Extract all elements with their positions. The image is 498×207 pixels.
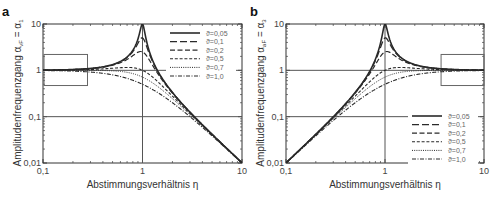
panel-b-x-axis-title: Abstimmungsverhältnis η bbox=[329, 179, 441, 190]
legend-label: ϑ=0,5 bbox=[206, 55, 224, 62]
legend: ϑ=0,05ϑ=0,1ϑ=0,2ϑ=0,5ϑ=0,7ϑ=1,0 bbox=[166, 27, 236, 83]
legend-label: ϑ=0,05 bbox=[206, 30, 228, 37]
y-tick-label: 10 bbox=[31, 19, 41, 29]
legend-label: ϑ=0,7 bbox=[448, 147, 466, 154]
panel-a-x-axis-title: Abstimmungsverhältnis η bbox=[87, 179, 199, 190]
legend: ϑ=0,05ϑ=0,1ϑ=0,2ϑ=0,5ϑ=0,7ϑ=1,0 bbox=[408, 110, 478, 166]
panel-a-chart: a 0,11100,010,1110ϑ=0,05ϑ=0,1ϑ=0,2ϑ=0,5ϑ… bbox=[2, 4, 247, 190]
figure: a 0,11100,010,1110ϑ=0,05ϑ=0,1ϑ=0,2ϑ=0,5ϑ… bbox=[0, 0, 498, 207]
y-tick-label: 0,01 bbox=[23, 158, 41, 168]
x-tick-label: 1 bbox=[382, 166, 387, 176]
panel-b-y-axis-title: Amplitudenfrequenzgang αaF = α3 bbox=[255, 19, 267, 167]
legend-label: ϑ=0,1 bbox=[448, 121, 466, 128]
y-tick-label: 0,1 bbox=[271, 112, 284, 122]
y-tick-label: 0,01 bbox=[266, 158, 284, 168]
x-tick-label: 10 bbox=[479, 166, 489, 176]
panel-b-plot-area: 0,11100,010,1110ϑ=0,05ϑ=0,1ϑ=0,2ϑ=0,5ϑ=0… bbox=[266, 19, 489, 176]
y-tick-label: 1 bbox=[36, 65, 41, 75]
x-tick-label: 1 bbox=[140, 166, 145, 176]
legend-label: ϑ=0,2 bbox=[448, 130, 466, 137]
legend-label: ϑ=0,05 bbox=[448, 113, 470, 120]
legend-label: ϑ=0,2 bbox=[206, 47, 224, 54]
x-tick-label: 10 bbox=[237, 166, 247, 176]
panel-a-plot-area: 0,11100,010,1110ϑ=0,05ϑ=0,1ϑ=0,2ϑ=0,5ϑ=0… bbox=[23, 19, 247, 176]
legend-label: ϑ=0,1 bbox=[206, 38, 224, 45]
legend-label: ϑ=1,0 bbox=[206, 73, 224, 80]
legend-label: ϑ=0,7 bbox=[206, 64, 224, 71]
panel-b-chart: b 0,11100,010,1110ϑ=0,05ϑ=0,1ϑ=0,2ϑ=0,5ϑ… bbox=[250, 4, 489, 190]
y-tick-label: 10 bbox=[274, 19, 284, 29]
legend-label: ϑ=0,5 bbox=[448, 138, 466, 145]
legend-label: ϑ=1,0 bbox=[448, 156, 466, 163]
panel-b-letter: b bbox=[250, 4, 258, 19]
y-tick-label: 0,1 bbox=[28, 112, 41, 122]
panel-a-letter: a bbox=[2, 4, 10, 19]
panel-a-y-axis-title: Amplitudenfrequenzgang αvF = α1 bbox=[12, 19, 24, 167]
y-tick-label: 1 bbox=[279, 65, 284, 75]
